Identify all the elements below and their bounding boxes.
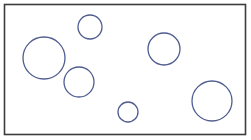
- circles-figure: [0, 0, 251, 140]
- diagram-border-frame: [5, 5, 246, 135]
- diagram-canvas: [0, 0, 251, 140]
